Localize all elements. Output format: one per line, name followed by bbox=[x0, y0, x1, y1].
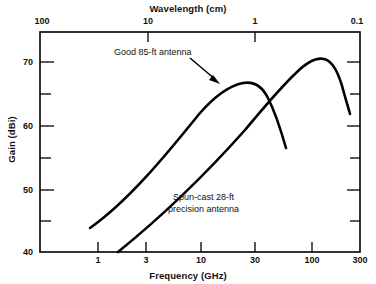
top-axis-ticks bbox=[148, 32, 255, 42]
chart-figure: Wavelength (cm) 100 10 1 0.1 1 3 10 30 1… bbox=[0, 0, 376, 284]
annotation-spun-cast-antenna: Spun-cast 28-ft precision antenna bbox=[168, 192, 239, 215]
series-spun-cast-28ft-antenna bbox=[118, 59, 350, 252]
annotation-spun-cast-line2: precision antenna bbox=[168, 204, 239, 216]
plot-frame bbox=[40, 32, 360, 252]
right-axis-ticks bbox=[347, 62, 360, 221]
annotation-good-85ft-antenna: Good 85-ft antenna bbox=[114, 47, 192, 58]
plot-area bbox=[0, 0, 376, 284]
left-axis-ticks bbox=[40, 62, 54, 221]
annotation-spun-cast-line1: Spun-cast 28-ft bbox=[168, 192, 239, 204]
annotation-arrow-85ft bbox=[190, 58, 220, 84]
